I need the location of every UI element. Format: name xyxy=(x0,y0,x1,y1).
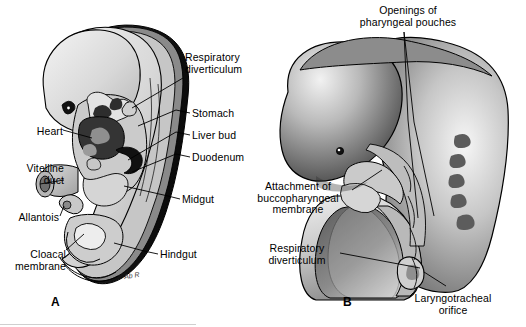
leader-openings-of-pharyngeal-pouches xyxy=(404,32,418,218)
label-allantois: Allantois xyxy=(0,212,59,224)
leader-liver-bud-inner xyxy=(128,132,176,160)
panel-letter-a: A xyxy=(51,295,60,309)
label-heart: Heart xyxy=(0,126,63,138)
leader-cloacal-membrane xyxy=(66,234,84,250)
label-respiratory-diverticulum: Respiratory diverticulum xyxy=(185,52,242,75)
leader-stomach-inner xyxy=(138,110,176,126)
bottom-rule xyxy=(0,324,196,325)
label-liver-bud: Liver bud xyxy=(192,130,236,142)
leader-respiratory-diverticulum-b xyxy=(340,253,420,268)
leader-respiratory-diverticulum xyxy=(166,78,183,88)
leader-duodenum xyxy=(176,154,190,157)
leader-laryngotracheal-orifice xyxy=(424,272,446,286)
label-openings-of-pharyngeal-pouches: Openings of pharyngeal pouches xyxy=(330,5,486,28)
leader-heart xyxy=(63,130,92,138)
leader-allantois xyxy=(60,206,64,216)
label-respiratory-diverticulum-b: Respiratory diverticulum xyxy=(253,243,341,266)
label-vitelline-duct: Vitelline duct xyxy=(0,163,64,186)
label-stomach: Stomach xyxy=(192,108,234,120)
leader-hindgut-inner xyxy=(114,243,144,251)
leader-stomach xyxy=(176,110,190,113)
label-attachment-of-buccopharyngeal-membrane: Attachment of buccopharyngeal membrane xyxy=(244,181,352,216)
leader-respiratory-diverticulum-inner xyxy=(132,88,166,108)
panel-letter-b: B xyxy=(343,295,352,309)
leader-duodenum-inner xyxy=(132,154,176,172)
label-laryngotracheal-orifice: Laryngotracheal orifice xyxy=(398,293,508,316)
leader-attachment-of-buccopharyngeal-membrane xyxy=(352,170,382,190)
label-duodenum: Duodenum xyxy=(192,152,244,164)
leader-midgut-inner xyxy=(124,186,168,196)
leader-midgut xyxy=(168,196,180,199)
label-midgut: Midgut xyxy=(182,194,214,206)
label-leader-lines xyxy=(0,0,526,327)
label-cloacal-membrane: Cloacal membrane xyxy=(0,249,66,272)
leader-liver-bud xyxy=(176,132,190,135)
embryo-development-figure: Respiratory diverticulum Stomach Liver b… xyxy=(0,0,526,327)
label-hindgut: Hindgut xyxy=(160,249,197,261)
leader-hindgut xyxy=(144,251,158,254)
